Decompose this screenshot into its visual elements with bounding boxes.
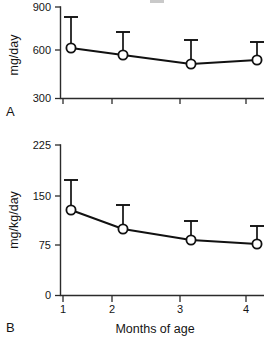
panel-b-error-bars (64, 180, 264, 244)
panel-b-axis-lines (61, 145, 265, 296)
panel-a-data-markers (66, 43, 261, 68)
panel-b-marker-1 (66, 205, 75, 214)
panel-b-x-axis-title: Months of age (115, 322, 194, 336)
panel-b-y-tick-0: 0 (45, 289, 51, 301)
two-panel-line-chart: mg/day 300 600 900 (0, 0, 264, 343)
panel-b-x-tick-1: 1 (60, 303, 66, 315)
panel-a-marker-1 (66, 43, 75, 52)
panel-b-x-tick-3: 3 (177, 303, 183, 315)
panel-a-axis-lines (61, 7, 265, 99)
panel-b-y-axis-title: mg/kg/day (7, 190, 21, 248)
panel-a-y-tick-600: 600 (33, 44, 51, 56)
panel-b-y-tick-150: 150 (33, 190, 51, 202)
panel-b-marker-4 (252, 239, 261, 248)
panel-b-y-tick-225: 225 (33, 139, 51, 151)
panel-a-y-tick-300: 300 (33, 92, 51, 104)
panel-a-marker-4 (252, 55, 261, 64)
panel-label-a: A (6, 104, 15, 119)
figure-container: A B mg/day 300 600 900 (0, 0, 264, 343)
panel-b-x-tick-4: 4 (243, 303, 249, 315)
panel-a: mg/day 300 600 900 (7, 1, 264, 104)
crop-artifact (150, 0, 164, 3)
panel-a-y-axis-title: mg/day (7, 34, 21, 76)
panel-a-y-tick-900: 900 (33, 1, 51, 13)
panel-b-series-line (71, 210, 257, 244)
panel-a-marker-3 (186, 59, 195, 68)
panel-b-x-tick-2: 2 (109, 303, 115, 315)
panel-a-error-bars (64, 17, 264, 64)
panel-b-marker-2 (118, 224, 127, 233)
panel-label-b: B (6, 320, 15, 335)
panel-b: mg/kg/day 0 75 150 225 1 2 3 4 Mont (7, 139, 264, 336)
panel-b-y-tick-75: 75 (39, 239, 51, 251)
panel-a-series-line (71, 48, 257, 64)
panel-a-marker-2 (118, 50, 127, 59)
panel-b-marker-3 (186, 235, 195, 244)
